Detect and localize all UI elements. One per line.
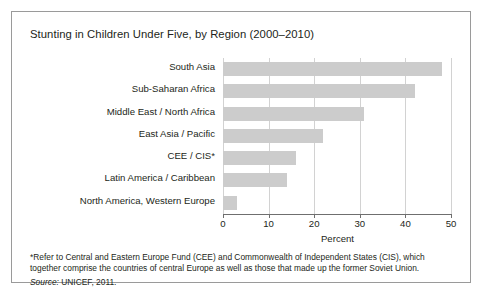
bar-east-asia-pacific[interactable] xyxy=(223,129,323,143)
bar-latin-america-caribbean[interactable] xyxy=(223,173,287,187)
x-axis-title: Percent xyxy=(223,233,452,244)
bar-row: CEE / CIS* xyxy=(223,147,451,169)
footnote-text: *Refer to Central and Eastern Europe Fun… xyxy=(30,252,455,274)
category-label: Latin America / Caribbean xyxy=(105,172,215,183)
x-tick-label: 40 xyxy=(400,218,411,229)
bar-cee-cis[interactable] xyxy=(223,151,296,165)
category-label: CEE / CIS* xyxy=(168,150,215,161)
x-tick-label: 50 xyxy=(446,218,457,229)
category-label: Middle East / North Africa xyxy=(107,106,215,117)
bar-row: Latin America / Caribbean xyxy=(223,169,451,191)
x-tick-label: 20 xyxy=(309,218,320,229)
source-value: UNICEF, 2011. xyxy=(59,277,117,287)
bar-row: South Asia xyxy=(223,58,451,80)
figure-container: Stunting in Children Under Five, by Regi… xyxy=(11,11,471,283)
category-label: South Asia xyxy=(169,61,215,72)
x-tick-label: 30 xyxy=(354,218,365,229)
bar-middle-east-north-africa[interactable] xyxy=(223,107,364,121)
bar-south-asia[interactable] xyxy=(223,62,442,76)
bar-sub-saharan-africa[interactable] xyxy=(223,84,415,98)
x-axis-line xyxy=(223,214,452,215)
category-label: Sub-Saharan Africa xyxy=(132,83,215,94)
source-label: Source: xyxy=(30,277,59,287)
plot-area: South Asia Sub-Saharan Africa Middle Eas… xyxy=(223,58,451,214)
chart-title: Stunting in Children Under Five, by Regi… xyxy=(30,28,314,40)
bar-north-america-western-europe[interactable] xyxy=(223,196,237,210)
x-tick-label: 0 xyxy=(220,218,225,229)
bar-row: East Asia / Pacific xyxy=(223,125,451,147)
gridline-50 xyxy=(451,58,452,214)
source-line: Source: UNICEF, 2011. xyxy=(30,277,116,287)
category-label: North America, Western Europe xyxy=(80,195,215,206)
bar-row: North America, Western Europe xyxy=(223,192,451,214)
bar-row: Sub-Saharan Africa xyxy=(223,80,451,102)
bar-row: Middle East / North Africa xyxy=(223,103,451,125)
category-label: East Asia / Pacific xyxy=(139,128,215,139)
x-tick-label: 10 xyxy=(263,218,274,229)
